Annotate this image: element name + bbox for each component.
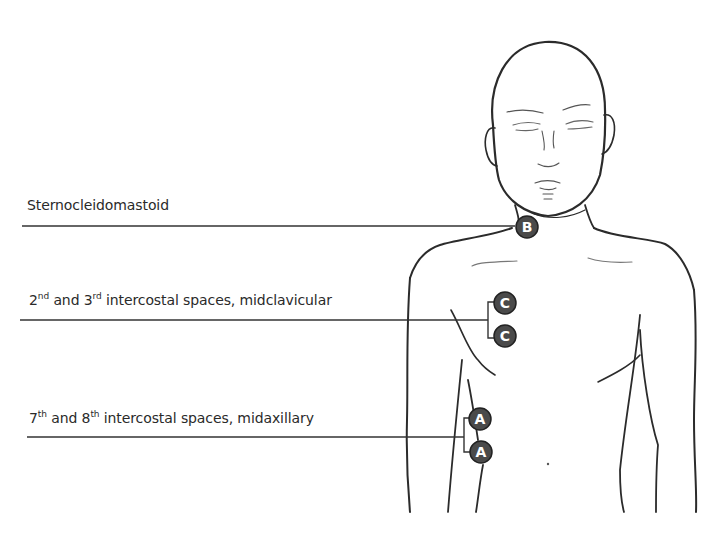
right-arm-outer (694, 290, 696, 512)
marker-c1: C (494, 292, 516, 314)
left-arm-outer (407, 278, 410, 512)
body-sketch: B C C A A (0, 0, 728, 540)
navel (547, 463, 549, 465)
left-eyebrow (507, 110, 543, 113)
right-eyebrow (563, 105, 590, 110)
svg-text:C: C (500, 328, 510, 344)
marker-a2: A (470, 441, 492, 463)
right-arm-inner (620, 315, 640, 512)
right-torso (640, 330, 658, 512)
svg-text:B: B (522, 219, 533, 235)
left-eye (513, 123, 540, 131)
svg-text:A: A (476, 444, 487, 460)
left-arm-inner (448, 360, 462, 512)
marker-c2: C (494, 325, 516, 347)
right-clavicle (588, 258, 632, 262)
mouth (535, 181, 560, 199)
right-shoulder (594, 228, 694, 290)
left-shoulder (410, 228, 512, 278)
svg-text:A: A (475, 411, 486, 427)
marker-b: B (516, 216, 538, 238)
marker-a1: A (469, 408, 491, 430)
svg-text:C: C (500, 295, 510, 311)
nose (538, 131, 559, 167)
left-clavicle (472, 261, 517, 266)
neck-right (585, 205, 594, 228)
right-eye (566, 121, 593, 129)
